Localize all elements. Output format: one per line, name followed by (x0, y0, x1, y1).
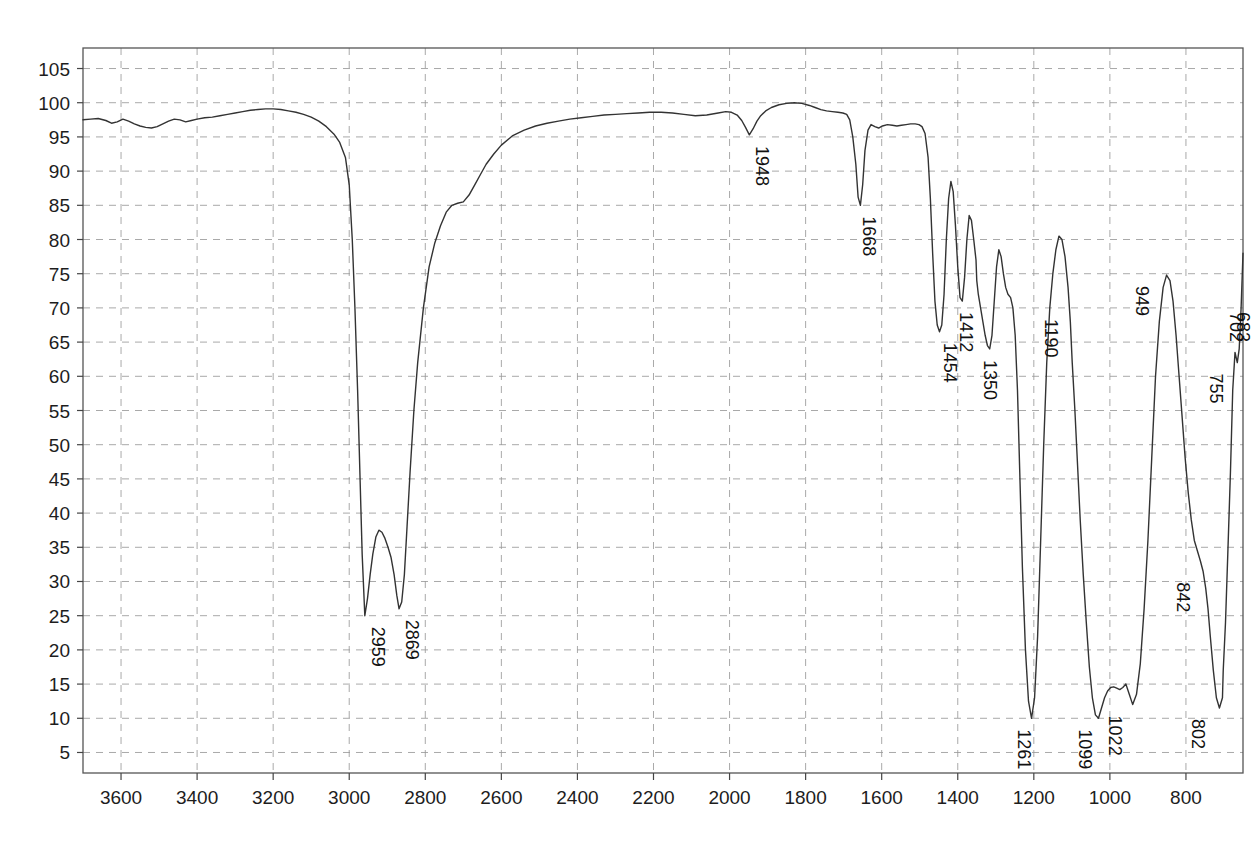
peak-label: 2959 (368, 627, 388, 667)
y-axis-tick-label: 75 (49, 264, 70, 285)
ir-spectrum-chart: 5101520253035404550556065707580859095100… (0, 0, 1258, 845)
peak-label: 802 (1188, 719, 1208, 749)
peak-label: 842 (1173, 582, 1193, 612)
peak-label: 949 (1132, 286, 1152, 316)
x-axis-tick-label: 2400 (556, 787, 598, 808)
x-axis-tick-label: 2000 (708, 787, 750, 808)
y-axis-tick-label: 15 (49, 674, 70, 695)
y-axis-tick-label: 35 (49, 537, 70, 558)
y-axis-tick-label: 85 (49, 195, 70, 216)
peak-label: 1099 (1075, 729, 1095, 769)
x-axis-tick-label: 1200 (1013, 787, 1055, 808)
peak-label: 1412 (956, 312, 976, 352)
y-axis-tick-label: 20 (49, 640, 70, 661)
x-axis-tick-label: 3600 (100, 787, 142, 808)
peak-label: 1350 (980, 360, 1000, 400)
y-axis-tick-label: 60 (49, 366, 70, 387)
y-axis-tick-label: 80 (49, 230, 70, 251)
y-axis-tick-label: 70 (49, 298, 70, 319)
peak-label: 1948 (752, 146, 772, 186)
y-axis-tick-label: 55 (49, 401, 70, 422)
y-axis-tick-label: 65 (49, 332, 70, 353)
y-axis-tick-label: 95 (49, 127, 70, 148)
y-axis-tick-label: 45 (49, 469, 70, 490)
peak-label: 1261 (1014, 729, 1034, 769)
y-axis-tick-label: 40 (49, 503, 70, 524)
x-axis-tick-label: 1800 (784, 787, 826, 808)
axis-ticks (77, 69, 1186, 780)
y-axis-tick-label: 30 (49, 571, 70, 592)
peak-label: 1668 (859, 216, 879, 256)
peak-label: 755 (1206, 374, 1226, 404)
y-axis-tick-label: 5 (59, 742, 70, 763)
x-axis-tick-label: 1600 (861, 787, 903, 808)
peak-label: 683 (1233, 312, 1253, 342)
x-axis-tick-labels: 3600340032003000280026002400220020001800… (100, 787, 1202, 808)
x-axis-tick-label: 2200 (632, 787, 674, 808)
y-axis-tick-label: 50 (49, 435, 70, 456)
spectrum-plot-svg: 5101520253035404550556065707580859095100… (0, 0, 1258, 845)
x-axis-tick-label: 800 (1170, 787, 1202, 808)
y-axis-tick-label: 90 (49, 161, 70, 182)
x-axis-tick-label: 2800 (404, 787, 446, 808)
x-axis-tick-label: 1000 (1089, 787, 1131, 808)
y-axis-tick-labels: 5101520253035404550556065707580859095100… (38, 59, 70, 764)
y-axis-tick-label: 10 (49, 708, 70, 729)
peak-label: 1190 (1041, 319, 1061, 358)
x-axis-tick-label: 3400 (176, 787, 218, 808)
y-axis-tick-label: 25 (49, 606, 70, 627)
y-axis-tick-label: 100 (38, 93, 70, 114)
x-axis-tick-label: 3200 (252, 787, 294, 808)
grid-lines (83, 48, 1243, 773)
peak-label: 2869 (402, 620, 422, 660)
x-axis-tick-label: 2600 (480, 787, 522, 808)
y-axis-tick-label: 105 (38, 59, 70, 80)
x-axis-tick-label: 1400 (937, 787, 979, 808)
x-axis-tick-label: 3000 (328, 787, 370, 808)
peak-label: 1022 (1105, 716, 1125, 756)
